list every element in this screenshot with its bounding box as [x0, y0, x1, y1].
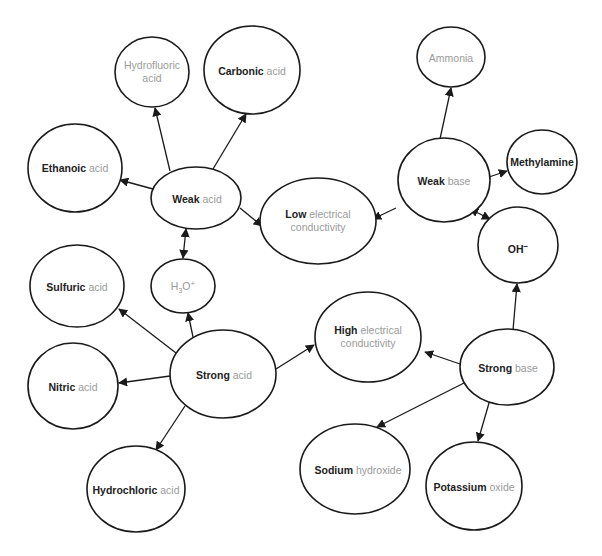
edge-strong-acid-high-conductivity — [276, 345, 314, 369]
label-rest: acid — [233, 369, 252, 381]
label-bold: Sodium — [315, 464, 354, 476]
label-rest: acid — [202, 193, 221, 205]
label-rest: Ammonia — [429, 52, 473, 64]
label-rest: electrical — [309, 208, 350, 220]
edge-strong-base-sodium-hydroxide — [377, 383, 464, 427]
label-rest: hydroxide — [356, 464, 402, 476]
label-sup: + — [191, 279, 196, 288]
label-bold: Nitric — [48, 381, 75, 393]
label-hydroxide-ion: OH− — [508, 240, 528, 257]
label-rest: H — [171, 280, 179, 292]
label-rest2: acid — [142, 72, 161, 84]
label-methylamine: Methylamine — [510, 156, 574, 169]
label-bold: Ethanoic — [42, 162, 86, 174]
label-ethanoic-acid: Ethanoic acid — [42, 162, 109, 175]
label-potassium-oxide: Potassium oxide — [433, 481, 514, 494]
label-rest: acid — [88, 281, 107, 293]
edge-strong-acid-sulfuric — [119, 309, 176, 353]
label-rest: acid — [89, 162, 108, 174]
label-bold: Low — [285, 208, 306, 220]
edge-weak-acid-carbonic — [213, 114, 246, 169]
label-bold: Weak — [172, 193, 199, 205]
label-rest2: conductivity — [341, 337, 396, 349]
label-hydrofluoric-acid: Hydrofluoric acid — [124, 59, 180, 85]
label-sulfuric-acid: Sulfuric acid — [46, 281, 107, 294]
label-rest: acid — [78, 381, 97, 393]
edge-weak-acid-hydrofluoric — [155, 108, 170, 171]
edge-weak-acid-ethanoic — [120, 180, 153, 189]
label-rest: oxide — [489, 481, 514, 493]
label-bold: Hydrochloric — [93, 484, 158, 496]
label-ammonia: Ammonia — [429, 52, 473, 65]
label-bold: Weak — [418, 175, 445, 187]
edge-strong-base-potassium-oxide — [478, 403, 489, 441]
label-rest: electrical — [360, 324, 401, 336]
label-rest: base — [515, 362, 538, 374]
label-carbonic-acid: Carbonic acid — [218, 65, 286, 78]
label-rest: Hydrofluoric — [124, 59, 180, 71]
label-rest2: conductivity — [291, 221, 346, 233]
edge-weak-base-ammonia — [440, 88, 451, 139]
label-strong-acid: Strong acid — [196, 369, 252, 382]
label-bold: Methylamine — [510, 156, 574, 168]
label-bold: Carbonic — [218, 65, 264, 77]
edge-weak-acid-hydronium — [183, 229, 186, 258]
label-rest: acid — [267, 65, 286, 77]
label-hydrochloric-acid: Hydrochloric acid — [93, 484, 180, 497]
label-high-conductivity: High electrical conductivity — [334, 324, 402, 350]
label-bold: Strong — [478, 362, 512, 374]
label-bold: Sulfuric — [46, 281, 85, 293]
concept-map — [0, 0, 602, 556]
label-nitric-acid: Nitric acid — [48, 381, 97, 394]
label-rest-after: O — [182, 280, 190, 292]
label-bold: High — [334, 324, 357, 336]
label-sup: − — [524, 242, 529, 251]
edge-strong-acid-nitric — [119, 376, 170, 383]
edge-strong-base-high-conductivity — [425, 352, 460, 364]
label-bold: OH — [508, 243, 524, 255]
edge-weak-acid-low-conductivity — [240, 208, 262, 226]
label-rest: base — [448, 175, 471, 187]
label-strong-base: Strong base — [478, 362, 538, 375]
label-low-conductivity: Low electrical conductivity — [285, 208, 350, 234]
label-rest: acid — [160, 484, 179, 496]
label-bold: Strong — [196, 369, 230, 381]
edge-strong-base-hydroxide — [513, 284, 517, 330]
label-weak-base: Weak base — [418, 175, 471, 188]
edge-strong-acid-hydronium — [188, 313, 193, 337]
label-sodium-hydroxide: Sodium hydroxide — [315, 464, 402, 477]
label-bold: Potassium — [433, 481, 486, 493]
edge-strong-acid-hydrochloric — [156, 406, 185, 450]
label-weak-acid: Weak acid — [172, 193, 221, 206]
label-hydronium-ion: H3O+ — [171, 277, 195, 298]
